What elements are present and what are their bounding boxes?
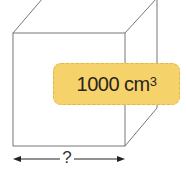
cube-bottom-right-edge bbox=[125, 108, 157, 146]
arrow-right-icon bbox=[117, 156, 125, 162]
arrow-left-icon bbox=[13, 156, 21, 162]
cube-top-left-edge bbox=[13, 0, 43, 33]
unknown-edge-length: ? bbox=[60, 148, 74, 168]
volume-exponent: 3 bbox=[150, 74, 157, 89]
volume-label: 1000 cm3 bbox=[53, 63, 180, 105]
volume-value: 1000 bbox=[77, 73, 120, 96]
volume-unit: cm bbox=[124, 73, 150, 96]
cube-top-right-edge bbox=[125, 0, 157, 33]
